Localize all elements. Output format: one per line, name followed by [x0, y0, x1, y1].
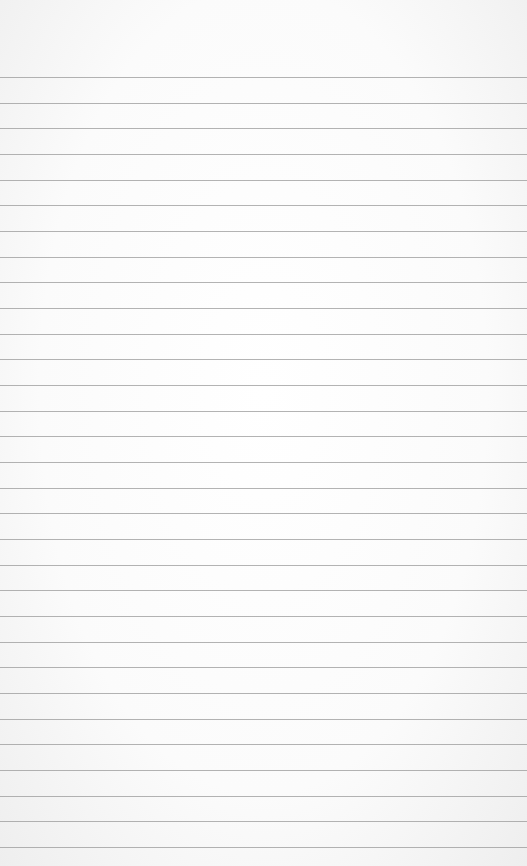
ruled-line [0, 744, 527, 745]
ruled-line [0, 128, 527, 129]
ruled-line [0, 77, 527, 78]
ruled-line [0, 616, 527, 617]
ruled-line [0, 796, 527, 797]
ruled-line [0, 308, 527, 309]
ruled-line [0, 436, 527, 437]
ruled-line [0, 385, 527, 386]
ruled-line [0, 334, 527, 335]
ruled-line [0, 513, 527, 514]
ruled-line [0, 205, 527, 206]
ruled-line [0, 667, 527, 668]
ruled-line [0, 590, 527, 591]
ruled-line [0, 359, 527, 360]
ruled-line [0, 847, 527, 848]
lined-paper [0, 0, 527, 866]
ruled-line [0, 565, 527, 566]
ruled-line [0, 231, 527, 232]
ruled-line [0, 282, 527, 283]
ruled-line [0, 539, 527, 540]
ruled-line [0, 462, 527, 463]
ruled-line [0, 488, 527, 489]
ruled-line [0, 154, 527, 155]
ruled-line [0, 180, 527, 181]
ruled-line [0, 642, 527, 643]
ruled-line [0, 719, 527, 720]
ruled-line [0, 257, 527, 258]
ruled-line [0, 693, 527, 694]
ruled-line [0, 770, 527, 771]
ruled-line [0, 411, 527, 412]
ruled-line [0, 103, 527, 104]
ruled-line [0, 821, 527, 822]
